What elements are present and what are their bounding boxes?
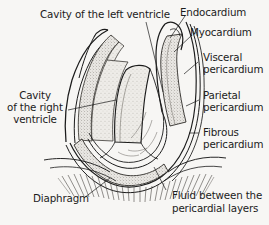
pericardium-diagram: Cavity of the left ventricle Endocardium… bbox=[0, 0, 269, 225]
label-diaphragm: Diaphragm bbox=[33, 193, 89, 205]
label-visceral-pericardium-line1: Visceral bbox=[203, 52, 242, 64]
label-endocardium: Endocardium bbox=[180, 7, 246, 19]
label-fibrous-pericardium-line1: Fibrous bbox=[203, 127, 239, 139]
label-cavity-of-right-ventricle-line3: ventricle bbox=[2, 114, 68, 126]
label-parietal-pericardium-line1: Parietal bbox=[203, 90, 241, 102]
label-parietal-pericardium-line2: pericardium bbox=[203, 102, 263, 114]
label-cavity-of-right-ventricle-line2: of the right bbox=[2, 102, 68, 114]
label-cavity-of-right-ventricle-line1: Cavity bbox=[2, 90, 68, 102]
label-fluid-between-layers-line2: pericardial layers bbox=[172, 203, 258, 215]
label-fluid-between-layers-line1: Fluid between the bbox=[172, 190, 262, 202]
label-myocardium: Myocardium bbox=[190, 27, 252, 39]
label-fibrous-pericardium-line2: pericardium bbox=[203, 139, 263, 151]
label-visceral-pericardium-line2: pericardium bbox=[203, 64, 263, 76]
leader-parietal-pericardium bbox=[186, 100, 199, 106]
label-cavity-of-left-ventricle: Cavity of the left ventricle bbox=[18, 9, 170, 21]
right-ventricle-wall bbox=[156, 22, 186, 126]
